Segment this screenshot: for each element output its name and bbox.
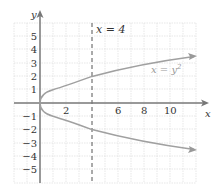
x-tick-6: 6 [115,105,121,116]
y-tick-3: 3 [31,58,37,69]
y-axis-label: y [30,9,37,20]
y-tick-neg1: −1 [22,111,37,122]
x-axis-label: x [205,108,211,119]
y-tick-neg4: −4 [22,151,37,162]
vline-label: x = 4 [96,23,125,36]
y-tick-4: 4 [31,44,37,55]
y-tick-2: 2 [31,71,37,82]
y-tick-neg5: −5 [22,164,37,175]
x-tick-labels: 2 6 8 10 [63,105,177,116]
x-tick-2: 2 [63,105,69,116]
parabola-chart: y x x = 4 x = y2 2 6 8 10 5 4 3 2 1 −1 −… [0,0,220,193]
y-tick-neg2: −2 [22,124,37,135]
x-tick-8: 8 [141,105,147,116]
y-tick-1: 1 [31,84,37,95]
y-tick-5: 5 [31,31,37,42]
curve-label: x = y2 [151,63,182,75]
y-tick-neg3: −3 [22,138,37,149]
x-tick-10: 10 [164,105,177,116]
